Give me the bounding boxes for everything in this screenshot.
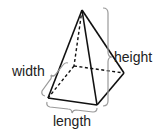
height-bracket xyxy=(103,8,112,106)
length-label: length xyxy=(53,113,91,129)
pyramid-diagram: height width length xyxy=(0,0,166,136)
edge-apex-front-left xyxy=(48,10,82,98)
edge-apex-front-right xyxy=(82,10,97,105)
hidden-edges xyxy=(48,10,124,98)
hidden-edge-back-left xyxy=(48,66,74,98)
width-label: width xyxy=(11,63,45,79)
edge-base-right xyxy=(97,73,124,105)
edge-base-front xyxy=(48,98,97,105)
visible-edges xyxy=(48,10,124,105)
height-label: height xyxy=(114,49,152,65)
hidden-edge-back-right xyxy=(74,66,124,73)
